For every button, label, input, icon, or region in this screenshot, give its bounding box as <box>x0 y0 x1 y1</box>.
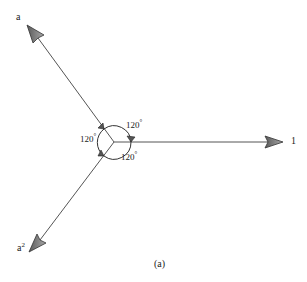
angle-lower-value: 120 <box>121 152 135 162</box>
diagram-graphics <box>0 0 307 282</box>
arrowhead-icon <box>265 136 283 148</box>
vector-a-label-text: a <box>16 11 20 22</box>
arrowhead-icon <box>29 234 46 252</box>
angle-left-unit: ° <box>94 132 97 140</box>
vector-1-arrow <box>114 136 283 148</box>
angle-lower-label: 120° <box>121 153 137 162</box>
vector-1-label-text: 1 <box>291 135 296 146</box>
angle-left-value: 120 <box>80 134 94 144</box>
figure-caption: (a) <box>154 259 165 269</box>
angle-upper-value: 120 <box>126 120 140 130</box>
arc-arrowhead-icon <box>127 136 135 142</box>
vector-a2-arrow <box>29 142 114 252</box>
angle-upper-unit: ° <box>140 118 143 126</box>
vector-a-label: a <box>16 12 20 22</box>
phasor-diagram: a a2 1 120° 120° 120° (a) <box>0 0 307 282</box>
vector-a-arrow <box>27 25 114 142</box>
vector-a2-label-exponent: 2 <box>21 241 25 249</box>
arrowhead-icon <box>27 25 44 43</box>
vector-1-label: 1 <box>291 136 296 146</box>
angle-upper-label: 120° <box>126 121 142 130</box>
angle-lower-unit: ° <box>135 150 138 158</box>
vector-a2-label: a2 <box>17 243 25 253</box>
angle-left-label: 120° <box>80 135 96 144</box>
